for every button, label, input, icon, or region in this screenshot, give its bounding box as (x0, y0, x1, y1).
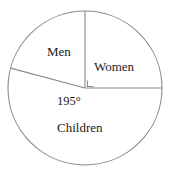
pie-chart-figure: Men Women 195° Children (0, 0, 175, 176)
pie-chart-graphic (0, 0, 175, 176)
pie-slice-label-women: Women (94, 60, 134, 73)
pie-angle-label-children: 195° (57, 95, 81, 108)
pie-slice-label-men: Men (47, 45, 71, 58)
pie-slice-label-children: Children (57, 121, 103, 134)
